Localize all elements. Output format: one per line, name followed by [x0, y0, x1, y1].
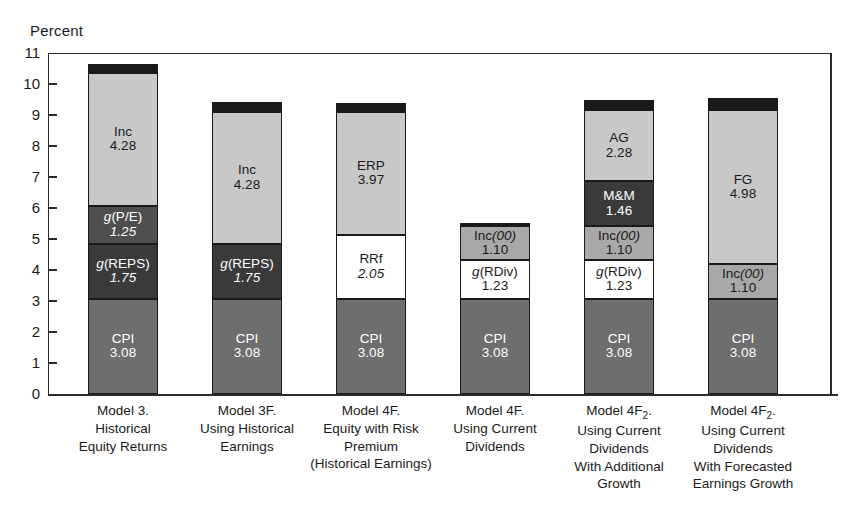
bar-cap-segment[interactable] — [708, 98, 778, 110]
segment-label: g(REPS) — [96, 257, 149, 272]
bar-cap-segment[interactable] — [336, 103, 406, 112]
segment-value: 4.28 — [110, 139, 136, 154]
segment-label: g(P/E) — [104, 210, 142, 225]
category-label-line: Premium — [301, 438, 441, 456]
segment-label: CPI — [112, 332, 135, 347]
bar-segment[interactable]: Inc(00)1.10 — [460, 226, 530, 260]
bar-segment[interactable]: g(RDiv)1.23 — [460, 260, 530, 298]
bar-segment[interactable]: g(RDiv)1.23 — [584, 260, 654, 298]
bar-cap-segment[interactable] — [88, 64, 158, 73]
segment-label: FG — [734, 173, 753, 188]
category-label-line: Using Current — [673, 422, 813, 440]
category-label-line: With Forecasted — [673, 458, 813, 476]
category-label-line: (Historical Earnings) — [301, 455, 441, 473]
category-label-line: Dividends — [549, 440, 689, 458]
bar-segment[interactable]: Inc4.28 — [88, 73, 158, 206]
bar-segment[interactable]: Inc4.28 — [212, 112, 282, 245]
category-label-line: Earnings — [177, 438, 317, 456]
category-label: Model 3.HistoricalEquity Returns — [53, 402, 193, 455]
segment-label: Inc — [114, 125, 132, 140]
segment-label: g(REPS) — [220, 257, 273, 272]
category-label-line: Dividends — [673, 440, 813, 458]
bar-segment[interactable]: Inc(00)1.10 — [708, 264, 778, 298]
segment-label: Inc(00) — [598, 229, 640, 244]
bar-segment[interactable]: FG4.98 — [708, 110, 778, 264]
bar-cap-segment[interactable] — [212, 102, 282, 111]
segment-value: 1.75 — [234, 271, 260, 286]
segment-label: Inc — [238, 163, 256, 178]
segment-value: 3.08 — [482, 346, 508, 361]
category-label-line: Using Historical — [177, 420, 317, 438]
x-axis-baseline — [48, 394, 838, 396]
bar-segment[interactable]: CPI3.08 — [212, 299, 282, 394]
bar-segment[interactable]: g(REPS)1.75 — [88, 244, 158, 298]
category-label-line: Model 3F. — [177, 402, 317, 420]
segment-label: Inc(00) — [722, 267, 764, 282]
category-label-line: With Additional — [549, 458, 689, 476]
segment-value: 3.08 — [606, 346, 632, 361]
segment-label: Inc(00) — [474, 229, 516, 244]
bar[interactable]: CPI3.08g(RDiv)1.23Inc(00)1.10 — [460, 223, 530, 394]
category-label-line: Using Current — [425, 420, 565, 438]
segment-value: 1.10 — [730, 281, 756, 296]
segment-label: CPI — [236, 332, 259, 347]
category-label: Model 4F2.Using CurrentDividendsWith Add… — [549, 402, 689, 493]
segment-value: 1.23 — [482, 279, 508, 294]
bar[interactable]: CPI3.08Inc(00)1.10FG4.98 — [708, 98, 778, 394]
bar-segment[interactable]: M&M1.46 — [584, 181, 654, 226]
category-label-line: Model 4F2. — [549, 402, 689, 422]
bar-cap-segment[interactable] — [460, 223, 530, 226]
category-label-line: Model 4F. — [301, 402, 441, 420]
segment-value: 1.75 — [110, 271, 136, 286]
segment-label: RRf — [359, 252, 382, 267]
segment-label: CPI — [732, 332, 755, 347]
category-label: Model 4F2.Using CurrentDividendsWith For… — [673, 402, 813, 493]
segment-value: 3.97 — [358, 173, 384, 188]
segment-label: AG — [609, 131, 629, 146]
bar[interactable]: CPI3.08g(REPS)1.75g(P/E)1.25Inc4.28 — [88, 64, 158, 394]
bar-segment[interactable]: CPI3.08 — [708, 299, 778, 394]
bar-segment[interactable]: g(REPS)1.75 — [212, 244, 282, 298]
category-label: Model 4F.Using CurrentDividends — [425, 402, 565, 455]
bar[interactable]: CPI3.08g(REPS)1.75Inc4.28 — [212, 102, 282, 394]
segment-value: 1.46 — [606, 204, 632, 219]
segment-value: 2.28 — [606, 146, 632, 161]
stacked-bar-chart: Percent 01234567891011 CPI3.08g(REPS)1.7… — [0, 0, 866, 512]
segment-value: 3.08 — [234, 346, 260, 361]
category-label-line: Growth — [549, 475, 689, 493]
bar-segment[interactable]: CPI3.08 — [88, 299, 158, 394]
category-label: Model 3F.Using HistoricalEarnings — [177, 402, 317, 455]
category-label-line: Model 4F. — [425, 402, 565, 420]
segment-label: M&M — [603, 189, 635, 204]
category-label-line: Equity Returns — [53, 438, 193, 456]
bar[interactable]: CPI3.08RRf2.05ERP3.97 — [336, 103, 406, 394]
segment-value: 3.08 — [110, 346, 136, 361]
bar-segment[interactable]: CPI3.08 — [336, 299, 406, 394]
category-label-line: Model 3. — [53, 402, 193, 420]
bar-segment[interactable]: AG2.28 — [584, 110, 654, 181]
segment-value: 4.98 — [730, 187, 756, 202]
segment-label: g(RDiv) — [472, 265, 518, 280]
category-label-line: Historical — [53, 420, 193, 438]
segment-value: 1.10 — [482, 243, 508, 258]
segment-label: CPI — [484, 332, 507, 347]
bars-layer: CPI3.08g(REPS)1.75g(P/E)1.25Inc4.28CPI3.… — [0, 0, 866, 394]
segment-label: g(RDiv) — [596, 265, 642, 280]
bar[interactable]: CPI3.08g(RDiv)1.23Inc(00)1.10M&M1.46AG2.… — [584, 100, 654, 395]
bar-segment[interactable]: CPI3.08 — [460, 299, 530, 394]
bar-segment[interactable]: g(P/E)1.25 — [88, 206, 158, 245]
segment-label: CPI — [608, 332, 631, 347]
segment-value: 1.23 — [606, 279, 632, 294]
segment-label: ERP — [357, 159, 385, 174]
category-label: Model 4F.Equity with RiskPremium(Histori… — [301, 402, 441, 473]
bar-cap-segment[interactable] — [584, 100, 654, 111]
category-label-line: Dividends — [425, 438, 565, 456]
bar-segment[interactable]: Inc(00)1.10 — [584, 226, 654, 260]
bar-segment[interactable]: ERP3.97 — [336, 112, 406, 235]
category-label-line: Model 4F2. — [673, 402, 813, 422]
segment-value: 4.28 — [234, 178, 260, 193]
segment-value: 1.10 — [606, 243, 632, 258]
category-label-line: Equity with Risk — [301, 420, 441, 438]
bar-segment[interactable]: RRf2.05 — [336, 235, 406, 299]
bar-segment[interactable]: CPI3.08 — [584, 299, 654, 394]
